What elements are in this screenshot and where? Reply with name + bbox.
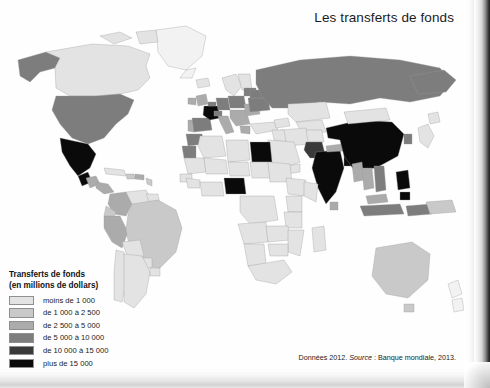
map-region: [274, 118, 290, 128]
map-region: [180, 68, 196, 78]
map-region: [272, 130, 286, 142]
map-region: [200, 182, 224, 196]
map-region: [188, 98, 196, 105]
map-region: [362, 168, 374, 190]
map-region: [326, 144, 343, 152]
map-region: [400, 192, 410, 200]
legend-item: de 2 500 à 5 000: [9, 319, 159, 332]
map-region: [404, 134, 412, 144]
page-edge-inner: [464, 0, 474, 372]
map-region: [184, 158, 206, 174]
map-region: [360, 204, 404, 216]
map-region: [135, 174, 144, 180]
map-region: [228, 162, 250, 176]
map-region: [304, 182, 318, 202]
map-region: [214, 111, 222, 116]
page-corner: [464, 362, 490, 388]
map-region: [228, 96, 246, 108]
map-region: [204, 158, 228, 174]
source-prefix: Données 2012.: [299, 353, 350, 362]
legend-label: de 2 500 à 5 000: [43, 321, 100, 330]
map-region: [156, 26, 206, 70]
legend-swatch: [9, 359, 34, 369]
map-region: [240, 126, 250, 134]
legend-swatch: [9, 346, 34, 356]
map-region: [418, 124, 434, 148]
map-region: [396, 170, 410, 190]
legend-label: de 1 000 à 2 500: [43, 308, 100, 317]
map-region: [192, 118, 212, 132]
map-region: [428, 112, 440, 124]
map-region: [100, 32, 132, 44]
map-region: [374, 166, 386, 192]
map-region: [286, 196, 302, 212]
map-region: [216, 98, 230, 110]
source-suffix: : Banque mondiale, 2013.: [372, 353, 456, 362]
legend-subtitle: (en millions de dollars): [9, 281, 159, 292]
map-region: [284, 212, 302, 228]
page-edge-right: [474, 0, 490, 372]
map-region: [250, 142, 272, 162]
legend-swatch: [9, 308, 34, 318]
map-region: [288, 230, 304, 256]
map-region: [448, 280, 462, 298]
map-region: [186, 178, 200, 188]
map-region: [18, 52, 60, 82]
map-region: [198, 136, 226, 158]
map-region: [240, 196, 278, 224]
map-region: [268, 244, 288, 256]
map-region: [52, 94, 134, 144]
legend-swatch: [9, 321, 34, 331]
map-region: [96, 182, 114, 194]
map-region: [312, 226, 326, 252]
map-region: [244, 244, 266, 266]
legend-label: plus de 15 000: [43, 359, 93, 368]
legend-item: plus de 15 000: [9, 357, 159, 370]
map-region: [126, 174, 135, 179]
map-region: [104, 168, 126, 176]
map-region: [226, 140, 250, 162]
legend-label: moins de 1 000: [43, 296, 95, 305]
map-region: [224, 178, 246, 194]
map-region: [60, 138, 96, 176]
map-region: [250, 162, 270, 178]
map-region: [330, 202, 338, 210]
source-note: Données 2012. Source : Banque mondiale, …: [299, 353, 456, 362]
map-region: [146, 178, 152, 186]
legend-title: Transferts de fonds: [9, 270, 159, 281]
legend-swatch: [9, 333, 34, 343]
legend-swatch: [9, 296, 34, 306]
scanned-page: Les transferts de fonds Transferts de fo…: [0, 0, 490, 388]
map-region: [372, 242, 430, 298]
map-region: [196, 94, 208, 106]
map-region: [452, 298, 464, 312]
map-region: [208, 102, 216, 106]
source-italic: Source: [349, 353, 372, 362]
legend-item: moins de 1 000: [9, 294, 159, 307]
legend-item: de 5 000 à 10 000: [9, 332, 159, 345]
map-region: [238, 222, 268, 244]
map-region: [366, 194, 388, 204]
map-region: [288, 102, 330, 122]
legend-item: de 10 000 à 15 000: [9, 344, 159, 357]
map-region: [136, 30, 158, 44]
map-region: [46, 44, 150, 96]
legend-item: de 1 000 à 2 500: [9, 307, 159, 320]
map-region: [404, 304, 414, 312]
map-region: [196, 78, 210, 88]
map-region: [286, 178, 306, 196]
legend-label: de 10 000 à 15 000: [43, 346, 108, 355]
page-edge-bottom: [0, 370, 490, 388]
map-region: [426, 200, 456, 214]
map-region: [306, 130, 324, 142]
legend-label: de 5 000 à 10 000: [43, 333, 104, 342]
map-region: [182, 146, 196, 158]
map-region: [266, 226, 290, 242]
